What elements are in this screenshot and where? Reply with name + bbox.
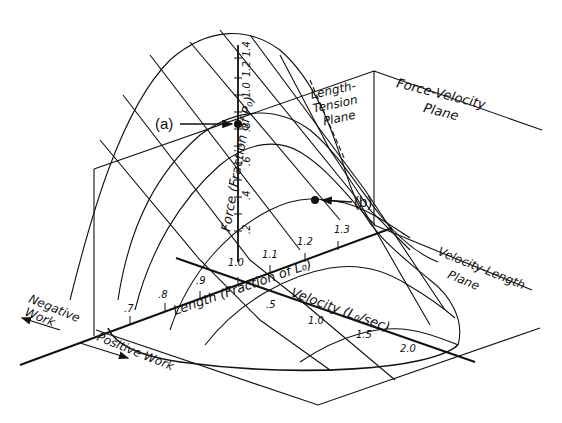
force-tick: 1.2 xyxy=(241,61,252,77)
length-tick: 1.2 xyxy=(297,236,313,247)
velocity-tick: 1.5 xyxy=(356,329,372,340)
length-tick: 1.0 xyxy=(228,257,244,268)
length-tick: .9 xyxy=(196,275,206,286)
force-tick: .2 xyxy=(241,224,252,234)
length-tick: 1.1 xyxy=(262,249,278,260)
point-a-label: (a) xyxy=(155,115,173,132)
length-tick: 1.3 xyxy=(334,224,350,235)
force-tick: 1.4 xyxy=(241,41,252,57)
velocity-tick: .5 xyxy=(266,299,276,310)
force-length-velocity-diagram: .2 .4 .6 .8 1.0 1.0 1.2 1.4 Force (Fract… xyxy=(0,0,562,423)
force-tick: .4 xyxy=(241,190,252,200)
work-labels: Negative Work Positive Work xyxy=(22,292,177,374)
point-b: (b) xyxy=(311,193,372,210)
length-tick: .7 xyxy=(124,303,134,314)
point-b-label: (b) xyxy=(354,193,372,210)
plane-labels: Length- Tension Plane Force-Velocity Pla… xyxy=(309,75,527,293)
length-tick: .8 xyxy=(158,289,168,300)
velocity-axis-label: Velocity (L₀/sec) xyxy=(289,285,392,335)
velocity-tick: 2.0 xyxy=(400,343,416,354)
velocity-tick: 1.0 xyxy=(308,315,324,326)
